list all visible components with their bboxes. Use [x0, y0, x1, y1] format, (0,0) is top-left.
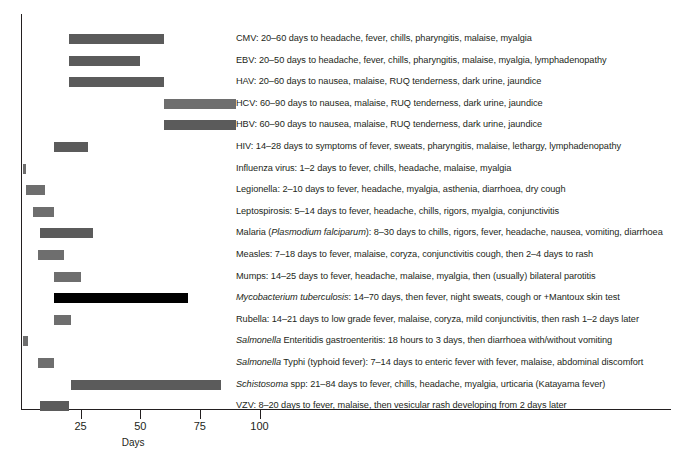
bar-label: Measles: 7–18 days to fever, malaise, co… — [236, 247, 593, 262]
bar-row: Malaria (Plasmodium falciparum): 8–30 da… — [0, 222, 678, 244]
bar-row: Schistosoma spp: 21–84 days to fever, ch… — [0, 374, 678, 396]
bar-row: HBV: 60–90 days to nausea, malaise, RUQ … — [0, 114, 678, 136]
bar-row: HAV: 20–60 days to nausea, malaise, RUQ … — [0, 71, 678, 93]
x-axis-tick-label: 100 — [250, 420, 268, 432]
bar-row: EBV: 20–50 days to headache, fever, chil… — [0, 50, 678, 72]
x-axis-title: Days — [122, 437, 145, 448]
range-bar — [69, 34, 164, 44]
bar-row: Salmonella Typhi (typhoid fever): 7–14 d… — [0, 352, 678, 374]
bar-label: Salmonella Enteritidis gastroenteritis: … — [236, 333, 612, 348]
range-bar — [26, 185, 45, 195]
range-bar — [69, 56, 141, 66]
bar-label: Schistosoma spp: 21–84 days to fever, ch… — [236, 377, 605, 392]
range-bar — [164, 120, 236, 130]
range-bar — [69, 77, 164, 87]
bar-label: Leptospirosis: 5–14 days to fever, heada… — [236, 204, 559, 219]
bar-row: Influenza virus: 1–2 days to fever, chil… — [0, 158, 678, 180]
range-bar — [54, 315, 71, 325]
bar-row: Legionella: 2–10 days to fever, headache… — [0, 179, 678, 201]
range-bar — [164, 99, 236, 109]
x-axis-tick-labels: 255075100 — [0, 420, 678, 436]
bar-label: Rubella: 14–21 days to low grade fever, … — [236, 312, 639, 327]
bar-row: Mycobacterium tuberculosis: 14–70 days, … — [0, 287, 678, 309]
range-bar — [54, 293, 188, 303]
range-bar — [33, 207, 54, 217]
range-bar — [40, 228, 92, 238]
bar-label: EBV: 20–50 days to headache, fever, chil… — [236, 53, 607, 68]
bar-label: HBV: 60–90 days to nausea, malaise, RUQ … — [236, 117, 542, 132]
bar-row: Measles: 7–18 days to fever, malaise, co… — [0, 244, 678, 266]
bar-row: Salmonella Enteritidis gastroenteritis: … — [0, 330, 678, 352]
bar-label: HIV: 14–28 days to symptoms of fever, sw… — [236, 139, 621, 154]
x-axis-tick — [260, 410, 261, 419]
range-bar — [54, 272, 80, 282]
bar-label: Malaria (Plasmodium falciparum): 8–30 da… — [236, 225, 663, 240]
range-bar — [23, 164, 26, 174]
x-axis-tick — [200, 410, 201, 419]
bar-label: Mycobacterium tuberculosis: 14–70 days, … — [236, 290, 620, 305]
bar-row: Rubella: 14–21 days to low grade fever, … — [0, 309, 678, 331]
bars-layer: CMV: 20–60 days to headache, fever, chil… — [0, 0, 678, 410]
x-axis-tick — [140, 410, 141, 419]
bar-label: HAV: 20–60 days to nausea, malaise, RUQ … — [236, 74, 541, 89]
x-axis-ticks — [0, 410, 678, 420]
bar-label: CMV: 20–60 days to headache, fever, chil… — [236, 31, 532, 46]
x-axis-tick-label: 50 — [134, 420, 146, 432]
bar-row: Leptospirosis: 5–14 days to fever, heada… — [0, 201, 678, 223]
incubation-period-chart: CMV: 20–60 days to headache, fever, chil… — [0, 0, 678, 460]
range-bar — [23, 336, 28, 346]
bar-label: Legionella: 2–10 days to fever, headache… — [236, 182, 565, 197]
x-axis-tick-label: 75 — [194, 420, 206, 432]
x-axis-tick-label: 25 — [75, 420, 87, 432]
x-axis-tick — [81, 410, 82, 419]
range-bar — [38, 250, 64, 260]
range-bar — [54, 142, 87, 152]
bar-label: Mumps: 14–25 days to fever, headache, ma… — [236, 269, 596, 284]
bar-label: HCV: 60–90 days to nausea, malaise, RUQ … — [236, 96, 543, 111]
bar-label: Salmonella Typhi (typhoid fever): 7–14 d… — [236, 355, 643, 370]
bar-row: Mumps: 14–25 days to fever, headache, ma… — [0, 266, 678, 288]
range-bar — [38, 358, 55, 368]
range-bar — [71, 380, 221, 390]
bar-row: HCV: 60–90 days to nausea, malaise, RUQ … — [0, 93, 678, 115]
bar-row: HIV: 14–28 days to symptoms of fever, sw… — [0, 136, 678, 158]
bar-label: Influenza virus: 1–2 days to fever, chil… — [236, 161, 511, 176]
bar-row: CMV: 20–60 days to headache, fever, chil… — [0, 28, 678, 50]
